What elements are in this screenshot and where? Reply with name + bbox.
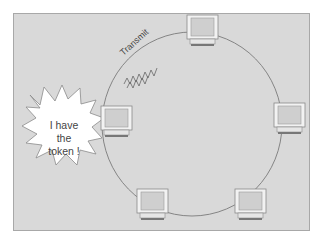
bubble-line-2: the [32, 132, 96, 145]
computer-icon-bottom-left[interactable] [137, 189, 168, 220]
computer-icon-left[interactable] [101, 106, 132, 137]
computer-icon-bottom-right[interactable] [235, 189, 266, 220]
computer-icon-top[interactable] [187, 15, 218, 46]
computer-icon-right[interactable] [274, 103, 305, 134]
bubble-line-1: I have [32, 119, 96, 132]
token-bubble-text: I have the token ! [32, 119, 96, 158]
transmit-signal-icon [124, 68, 157, 88]
bubble-line-3: token ! [32, 145, 96, 158]
